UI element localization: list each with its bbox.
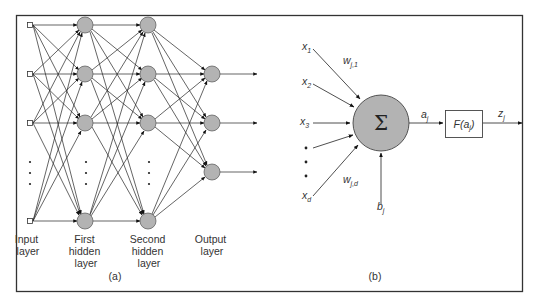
panel-b-caption: (b)	[369, 270, 382, 282]
panel-a-caption: (a)	[109, 270, 122, 282]
input-nodes	[28, 23, 33, 224]
output-zj-label: zj	[497, 107, 505, 122]
hidden1-to-hidden2-connections	[90, 25, 145, 221]
input-xd-label: xd	[301, 189, 312, 203]
output-arrows	[220, 74, 257, 172]
input-ellipsis-dots	[305, 147, 308, 178]
input-x1-label: x1	[301, 40, 311, 54]
sigma-symbol: Σ	[374, 111, 388, 135]
input-to-hidden1-connections	[33, 25, 82, 221]
weight-wjd-label: wj,d	[343, 173, 359, 188]
neural-network-figure: Input layer First hidden layer Second hi…	[0, 0, 542, 307]
first-hidden-layer-label: First hidden layer	[69, 233, 103, 269]
input-x3-label: x3	[299, 115, 309, 129]
hidden1-nodes	[77, 17, 93, 229]
bias-bj-label: bj	[377, 200, 385, 215]
output-layer-label: Output layer	[195, 233, 229, 257]
weight-wj1-label: wj,1	[343, 54, 358, 69]
hidden2-nodes	[140, 17, 156, 229]
activation-aj-label: aj	[421, 108, 429, 123]
input-x2-label: x2	[301, 75, 311, 89]
input-layer-label: Input layer	[15, 233, 41, 257]
function-label: F(aj)	[454, 118, 475, 132]
second-hidden-layer-label: Second hidden layer	[130, 233, 169, 269]
hidden2-to-output-connections	[152, 30, 207, 217]
